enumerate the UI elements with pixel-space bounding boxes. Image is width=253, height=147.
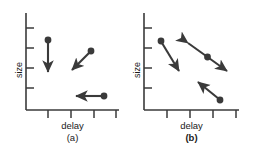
panel-b-down-right-arrow <box>158 38 179 71</box>
panel-a-down-arrow <box>45 37 52 72</box>
panel-b: size delay (b) <box>127 0 253 147</box>
panel-a-y-ticks <box>26 28 34 88</box>
panel-b-double-headed-arrow <box>188 43 227 71</box>
panel-a-left-arrow <box>76 93 107 100</box>
panel-b-x-axis-label: delay <box>144 120 239 131</box>
panel-b-axes <box>144 13 239 110</box>
panel-b-x-ticks <box>167 110 236 118</box>
figure-container: size delay (a) <box>0 0 253 147</box>
panel-a-y-axis-label: size <box>14 62 24 78</box>
panel-b-y-ticks <box>144 28 152 88</box>
panel-a-caption: (a) <box>26 132 119 143</box>
panel-a-down-left-arrow <box>72 48 94 70</box>
panel-b-y-axis-label: size <box>132 62 142 78</box>
panel-a: size delay (a) <box>0 0 126 147</box>
panel-a-x-ticks <box>48 110 116 118</box>
panel-a-x-axis-label: delay <box>26 120 119 131</box>
panel-b-caption: (b) <box>144 132 239 143</box>
panel-b-up-left-arrow <box>198 82 223 103</box>
